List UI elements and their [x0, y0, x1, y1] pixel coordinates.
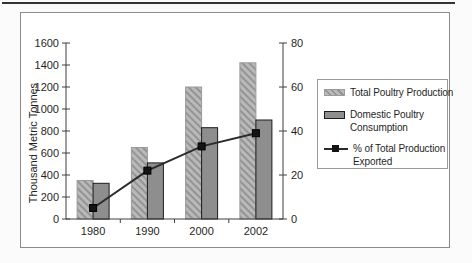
total-production-swatch-icon	[324, 89, 345, 96]
exports-marker-1990	[144, 167, 151, 174]
category-label-2000: 2000	[189, 225, 213, 237]
figure: { "chart_data": { "type": "bar", "subtyp…	[0, 0, 472, 263]
right-tick-label: 60	[291, 81, 303, 93]
left-tick-label: 1600	[35, 37, 59, 49]
left-axis-title: Thousand Metric Tonnes	[27, 63, 41, 223]
percent-exported-marker-icon	[332, 145, 339, 152]
bar-domestic-1980	[93, 183, 109, 219]
legend-label-total-production: Total Poultry Production	[350, 87, 453, 100]
left-tick-label: 400	[41, 169, 59, 181]
legend: Total Poultry Production Domestic Poultr…	[317, 79, 448, 169]
left-tick-label: 200	[41, 191, 59, 203]
exports-line	[93, 133, 256, 208]
top-rule	[2, 2, 455, 4]
right-tick-label: 20	[291, 169, 303, 181]
domestic-consumption-swatch-icon	[324, 111, 345, 119]
left-tick-label: 0	[53, 213, 59, 225]
bar-total-1990	[131, 148, 147, 220]
right-tick-label: 80	[291, 37, 303, 49]
exports-marker-1980	[90, 205, 97, 212]
chart-frame: 0200400600800100012001400160002040608019…	[20, 12, 450, 248]
legend-item-domestic-consumption: Domestic Poultry Consumption	[324, 109, 445, 135]
legend-item-total-production: Total Poultry Production	[324, 87, 445, 100]
category-label-1980: 1980	[81, 225, 105, 237]
legend-label-domestic-consumption: Domestic Poultry Consumption	[350, 109, 424, 135]
category-label-1990: 1990	[135, 225, 159, 237]
bar-domestic-2000	[202, 128, 218, 219]
exports-marker-2002	[252, 130, 259, 137]
bar-total-2002	[240, 63, 256, 219]
category-label-2002: 2002	[244, 225, 268, 237]
percent-exported-line-swatch-icon	[324, 148, 348, 150]
legend-label-percent-exported: % of Total Production Exported	[353, 143, 445, 169]
right-tick-label: 40	[291, 125, 303, 137]
legend-item-percent-exported: % of Total Production Exported	[324, 143, 445, 169]
bar-total-1980	[77, 181, 93, 220]
left-tick-label: 800	[41, 125, 59, 137]
exports-marker-2000	[198, 143, 205, 150]
left-tick-label: 600	[41, 147, 59, 159]
right-tick-label: 0	[291, 213, 297, 225]
